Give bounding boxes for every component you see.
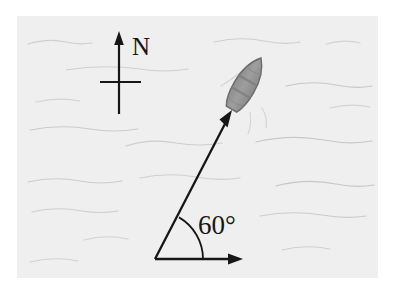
angle-label: 60°: [198, 210, 236, 240]
diagram-canvas: N 60°: [0, 0, 404, 295]
north-label: N: [132, 33, 150, 60]
boat-bearing-diagram: N 60°: [0, 0, 404, 295]
